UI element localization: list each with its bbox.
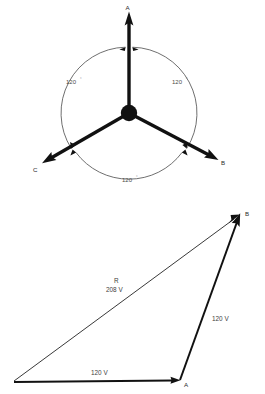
triangle-vertex-label-a: A: [184, 381, 189, 388]
triangle-side-bottom-arrowhead: [171, 377, 181, 384]
diagram-canvas: A B C 120 ° 120 ° 120 °: [0, 0, 265, 394]
angle-label-b-c-value: 120: [122, 177, 133, 183]
triangle-label-resultant-value: 208 V: [106, 286, 123, 293]
phasor-c-shaft: [51, 113, 129, 158]
figure-root: A B C 120 ° 120 ° 120 °: [0, 0, 265, 394]
angle-label-a-b-value: 120: [172, 79, 183, 85]
star-diagram-group: A B C 120 ° 120 ° 120 °: [33, 4, 225, 183]
angle-label-a-b: 120 °: [172, 76, 188, 85]
phasor-origin-hub: [121, 105, 137, 121]
triangle-diagram-group: A B 120 V 120 V R 208 V: [14, 210, 249, 388]
angle-label-c-a: 120 °: [66, 76, 82, 85]
phasor-b: [129, 113, 219, 160]
triangle-label-resultant-symbol: R: [114, 277, 119, 284]
angle-label-c-a-degree: °: [80, 76, 82, 81]
arc-arrowhead-bottom-left: [70, 150, 76, 156]
triangle-label-right: 120 V: [212, 315, 229, 322]
angle-label-b-c: 120 °: [122, 174, 138, 183]
triangle-side-bottom: [14, 377, 181, 384]
triangle-side-right-shaft: [180, 222, 237, 380]
phasor-label-b: B: [221, 159, 225, 166]
triangle-side-right: [180, 213, 240, 380]
phasor-label-a: A: [126, 4, 131, 11]
phasor-label-c: C: [33, 166, 38, 173]
triangle-side-resultant: [14, 215, 240, 381]
phasor-a: [125, 12, 134, 114]
phasor-c: [42, 113, 129, 163]
triangle-side-bottom-shaft: [14, 381, 172, 383]
triangle-vertex-label-b: B: [245, 210, 249, 217]
angle-arc-b-to-c: [76, 153, 182, 180]
arc-arrowhead-bottom-right: [182, 150, 188, 156]
triangle-side-resultant-shaft: [14, 219, 234, 381]
triangle-label-bottom: 120 V: [91, 369, 108, 376]
angle-label-c-a-value: 120: [66, 79, 77, 85]
